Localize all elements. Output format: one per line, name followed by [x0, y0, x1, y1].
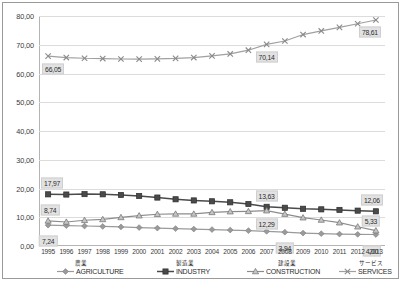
- y-axis-tick-label: 50,00: [16, 98, 34, 107]
- data-point-marker: [282, 205, 287, 210]
- data-label: 7,24: [39, 236, 57, 247]
- legend-marker-icon: [57, 267, 74, 276]
- x-axis-tick-label: 2008: [278, 248, 292, 255]
- y-axis-tick-label: 60,00: [16, 69, 34, 78]
- x-axis-tick-label: 2007: [260, 248, 274, 255]
- y-axis-tick-label: 0,00: [20, 242, 34, 251]
- y-axis-tick-label: 40,00: [16, 127, 34, 136]
- y-axis-tick-label: 10,00: [16, 213, 34, 222]
- x-axis-tick-label: 1999: [114, 248, 128, 255]
- legend-label-jp-agriculture: 農業: [75, 259, 87, 267]
- y-axis-tick-label: 80,00: [16, 12, 34, 21]
- data-point-marker: [282, 229, 288, 235]
- x-axis-tick-label: 1996: [59, 248, 73, 255]
- data-point-marker: [155, 195, 160, 200]
- x-axis-tick-label: 2005: [223, 248, 237, 255]
- data-point-marker: [355, 231, 361, 237]
- y-axis-tick-label: 30,00: [16, 155, 34, 164]
- legend-marker-icon: [157, 267, 174, 276]
- data-point-marker: [246, 228, 252, 234]
- data-label: 5,33: [362, 215, 380, 226]
- data-point-marker: [137, 193, 142, 198]
- data-point-marker: [100, 192, 105, 197]
- data-point-marker: [355, 208, 360, 213]
- x-axis-tick-label: 2001: [150, 248, 164, 255]
- legend-label-jp-services: サービス: [359, 259, 383, 267]
- data-point-marker: [337, 231, 343, 237]
- data-point-marker: [191, 226, 197, 232]
- x-axis: 1995199619971998199920002001200220032004…: [39, 248, 385, 259]
- data-point-marker: [319, 207, 324, 212]
- data-point-marker: [46, 192, 51, 197]
- x-axis-tick-label: 2011: [333, 248, 346, 255]
- data-label: 8,74: [41, 204, 59, 215]
- data-label: 12,06: [361, 195, 383, 206]
- data-point-marker: [300, 206, 305, 211]
- legend-marker-icon: [339, 267, 356, 276]
- x-axis-tick-label: 2013: [369, 248, 383, 255]
- legend-label-construction: CONSTRUCTION: [266, 268, 320, 275]
- series-services: [45, 17, 378, 62]
- x-axis-tick-label: 2000: [132, 248, 146, 255]
- data-label: 13,63: [256, 190, 278, 201]
- chart-legend: 農業AGRICULTURE製造業INDUSTRY建設業CONSTRUCTIONサ…: [39, 259, 385, 279]
- x-axis-tick-label: 1997: [78, 248, 92, 255]
- data-point-marker: [64, 192, 69, 197]
- x-axis-tick-label: 1998: [96, 248, 110, 255]
- legend-item-construction[interactable]: CONSTRUCTION: [247, 267, 320, 276]
- data-point-marker: [227, 227, 233, 233]
- data-point-marker: [118, 224, 124, 230]
- legend-item-services[interactable]: SERVICES: [339, 267, 392, 276]
- series-agriculture: [45, 222, 379, 237]
- legend-item-agriculture[interactable]: AGRICULTURE: [57, 267, 123, 276]
- data-label: 17,97: [41, 178, 63, 189]
- data-point-marker: [136, 225, 142, 231]
- plot-area: 7,243,944,0017,9713,6312,068,7412,295,33…: [39, 16, 385, 246]
- data-point-marker: [82, 223, 88, 229]
- data-label: 70,14: [256, 52, 278, 63]
- series-line: [48, 20, 376, 59]
- x-axis-tick-label: 1995: [41, 248, 55, 255]
- x-axis-tick-label: 2009: [296, 248, 310, 255]
- data-point-marker: [163, 269, 168, 274]
- y-axis: 0,0010,0020,0030,0040,0050,0060,0070,008…: [3, 16, 37, 246]
- data-point-marker: [373, 209, 378, 214]
- data-point-marker: [82, 192, 87, 197]
- data-point-marker: [209, 199, 214, 204]
- series-layer: [39, 16, 385, 246]
- data-point-marker: [191, 198, 196, 203]
- legend-label-industry: INDUSTRY: [176, 268, 210, 275]
- data-point-marker: [246, 201, 251, 206]
- data-label: 78,61: [359, 26, 381, 37]
- x-axis-tick-label: 2012: [351, 248, 365, 255]
- legend-label-jp-construction: 建設業: [278, 259, 296, 267]
- data-label: 66,05: [42, 64, 64, 75]
- y-axis-tick-label: 20,00: [16, 184, 34, 193]
- data-point-marker: [173, 197, 178, 202]
- x-axis-tick-label: 2002: [169, 248, 183, 255]
- x-axis-tick-label: 2003: [187, 248, 201, 255]
- data-point-marker: [63, 269, 69, 275]
- x-axis-tick-label: 2004: [205, 248, 219, 255]
- x-axis-tick-label: 2010: [314, 248, 328, 255]
- data-point-marker: [100, 224, 106, 230]
- data-point-marker: [337, 207, 342, 212]
- x-axis-tick-label: 2006: [241, 248, 255, 255]
- data-point-marker: [264, 228, 270, 234]
- legend-label-services: SERVICES: [358, 268, 392, 275]
- legend-label-jp-industry: 製造業: [176, 259, 194, 267]
- legend-marker-icon: [247, 267, 264, 276]
- data-label: 12,29: [256, 218, 278, 229]
- data-point-marker: [318, 231, 324, 237]
- legend-label-agriculture: AGRICULTURE: [76, 268, 123, 275]
- data-point-marker: [300, 230, 306, 236]
- y-axis-tick-label: 70,00: [16, 40, 34, 49]
- chart-container: 0,0010,0020,0030,0040,0050,0060,0070,008…: [2, 2, 399, 279]
- data-point-marker: [209, 227, 215, 233]
- data-point-marker: [228, 200, 233, 205]
- legend-item-industry[interactable]: INDUSTRY: [157, 267, 210, 276]
- data-point-marker: [154, 225, 160, 231]
- data-point-marker: [173, 226, 179, 232]
- data-point-marker: [118, 192, 123, 197]
